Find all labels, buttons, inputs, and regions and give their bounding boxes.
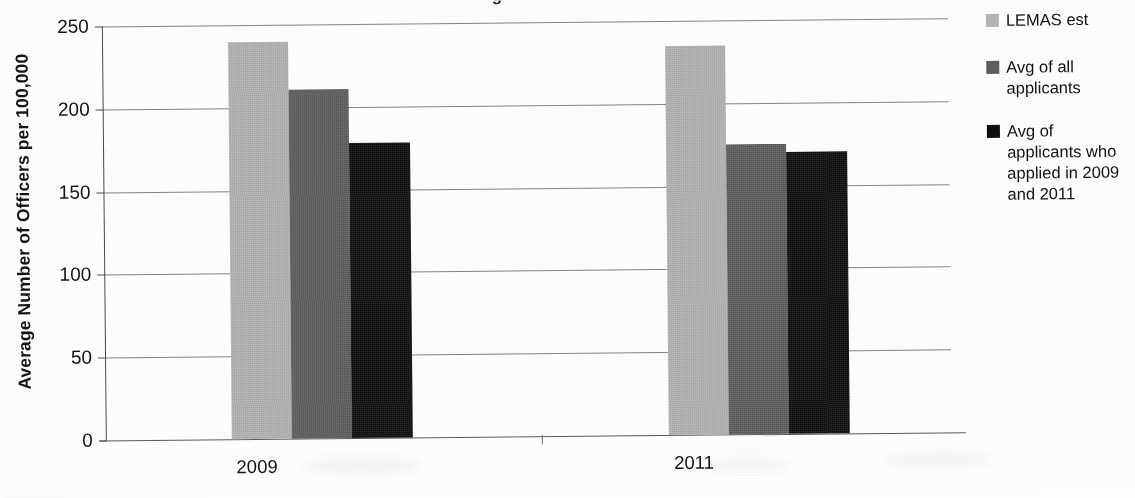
cropped-title-fragment: g (0, 0, 1131, 17)
bar-2009-lemas-est[interactable] (228, 41, 292, 439)
y-tick-200 (96, 109, 104, 110)
x-axis-group-divider-tick (542, 435, 543, 444)
gridline-250 (102, 18, 948, 27)
y-tick-label-250: 250 (57, 16, 89, 38)
x-axis-label-2009: 2009 (177, 455, 337, 479)
bar-2009-avg-applicants-both-years[interactable] (349, 143, 413, 438)
legend-item-avg-all-applicants[interactable]: Avg of all applicants (986, 56, 1126, 99)
legend-label: Avg of applicants who applied in 2009 an… (1007, 120, 1120, 205)
y-axis-line (102, 26, 107, 440)
y-tick-100 (97, 275, 105, 276)
legend-swatch-icon (986, 14, 999, 27)
y-tick-label-150: 150 (59, 181, 91, 203)
legend-swatch-icon (987, 125, 1000, 138)
legend: LEMAS est Avg of all applicants Avg of a… (986, 9, 1128, 231)
bar-2011-lemas-est[interactable] (665, 45, 729, 435)
bar-chart-figure: g Average Number of Officers per 100,000… (0, 0, 1135, 498)
bar-2009-avg-all-applicants[interactable] (288, 89, 351, 439)
legend-label: LEMAS est (1006, 9, 1089, 31)
y-tick-0 (99, 440, 107, 441)
y-tick-label-0: 0 (82, 430, 93, 452)
legend-item-lemas-est[interactable]: LEMAS est (986, 9, 1126, 31)
y-tick-250 (95, 26, 103, 27)
y-axis-title: Average Number of Officers per 100,000 (11, 12, 36, 432)
x-axis-line (100, 432, 966, 441)
y-tick-50 (98, 358, 106, 359)
x-axis-label-2011: 2011 (614, 451, 774, 475)
legend-swatch-icon (986, 61, 999, 74)
y-tick-label-200: 200 (58, 98, 90, 120)
scanned-page: g Average Number of Officers per 100,000… (0, 0, 1135, 498)
y-tick-label-50: 50 (71, 347, 92, 369)
bar-2011-avg-applicants-both-years[interactable] (786, 152, 850, 434)
y-tick-label-100: 100 (59, 264, 91, 286)
legend-item-avg-applicants-both-years[interactable]: Avg of applicants who applied in 2009 an… (987, 120, 1128, 205)
y-tick-150 (96, 192, 104, 193)
legend-label: Avg of all applicants (1006, 56, 1118, 99)
scan-smudge (882, 451, 992, 468)
plot-area: 250 200 150 100 50 0 (102, 18, 952, 440)
bar-2011-avg-all-applicants[interactable] (726, 144, 789, 434)
